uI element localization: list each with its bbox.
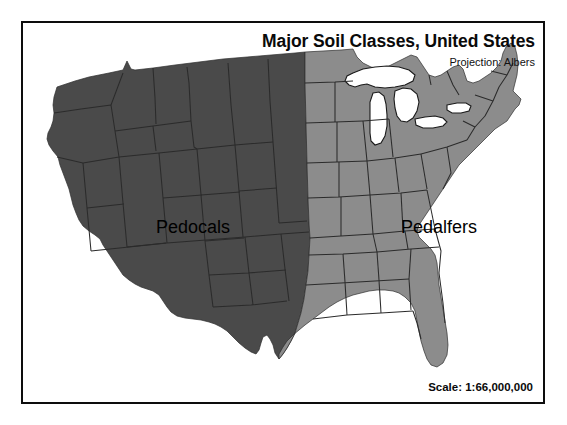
map-frame-border: Pedocals Pedalfers Major Soil Classes, U… — [21, 21, 545, 404]
region-pedalfers — [279, 43, 521, 367]
us-soil-classes-map: Pedocals Pedalfers — [23, 23, 543, 402]
map-title: Major Soil Classes, United States — [262, 31, 535, 51]
title-block: Major Soil Classes, United States Projec… — [262, 31, 535, 69]
lake-ontario — [447, 103, 471, 113]
region-pedocals — [47, 52, 310, 359]
map-subtitle-projection: Projection: Albers — [262, 56, 535, 69]
map-figure: Pedocals Pedalfers Major Soil Classes, U… — [0, 0, 567, 425]
lake-michigan — [370, 92, 387, 145]
region-label-pedocals: Pedocals — [156, 217, 230, 237]
map-scale-text: Scale: 1:66,000,000 — [428, 381, 533, 393]
lake-erie — [415, 116, 447, 128]
region-label-pedalfers: Pedalfers — [401, 217, 477, 237]
